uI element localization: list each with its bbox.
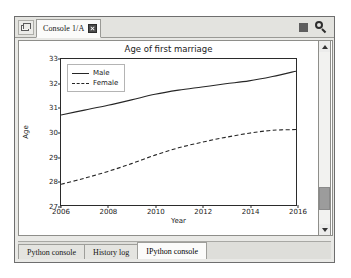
- y-tick-label: 29: [49, 154, 58, 162]
- x-tick-mark: [203, 205, 204, 208]
- folder-browse-icon[interactable]: [18, 20, 34, 35]
- x-tick-mark: [298, 205, 299, 208]
- y-tick-label: 32: [49, 80, 58, 88]
- legend-label-female: Female: [93, 79, 118, 87]
- legend-label-male: Male: [93, 69, 110, 77]
- y-tick-label: 33: [49, 55, 58, 63]
- bottom-tab-ipython-console[interactable]: IPython console: [137, 242, 207, 259]
- x-axis-label: Year: [60, 217, 297, 225]
- x-tick-label: 2006: [52, 208, 70, 216]
- chart-legend: Male Female: [67, 64, 125, 92]
- y-tick-mark: [58, 59, 61, 60]
- console-tab-label: Console 1/A: [43, 24, 84, 33]
- tab-console-1a[interactable]: Console 1/A: [36, 19, 101, 38]
- legend-swatch-female: [72, 83, 89, 84]
- x-tick-label: 2010: [147, 208, 165, 216]
- y-tick-label: 30: [49, 129, 58, 137]
- plot-axes: Male Female 2728293031323320062008201020…: [60, 58, 297, 206]
- y-tick-label: 31: [49, 104, 58, 112]
- legend-entry-male: Male: [72, 68, 118, 78]
- console-output-area[interactable]: Age of first marriage Age Year Male Fema…: [18, 40, 333, 236]
- vertical-scrollbar[interactable]: [318, 40, 331, 236]
- y-tick-mark: [58, 83, 61, 84]
- y-tick-mark: [58, 182, 61, 183]
- bottom-tab-bar: Python consoleHistory logIPython console: [18, 241, 331, 259]
- y-tick-label: 28: [49, 178, 58, 186]
- magnifier-options-icon[interactable]: [315, 21, 327, 33]
- x-tick-mark: [61, 205, 62, 208]
- topbar-spacer: [101, 17, 299, 37]
- chevron-down-glyph: [322, 228, 328, 232]
- chart-title: Age of first marriage: [19, 44, 318, 54]
- bottom-tab-history-log[interactable]: History log: [84, 244, 138, 259]
- x-tick-mark: [250, 205, 251, 208]
- scrollbar-thumb[interactable]: [319, 187, 330, 210]
- x-tick-mark: [108, 205, 109, 208]
- series-line-female: [61, 130, 296, 185]
- legend-entry-female: Female: [72, 78, 118, 88]
- y-tick-mark: [58, 108, 61, 109]
- bottom-tab-python-console[interactable]: Python console: [18, 244, 85, 259]
- x-tick-label: 2012: [194, 208, 212, 216]
- console-topbar: Console 1/A: [15, 17, 334, 38]
- spyder-console-window: Console 1/A Age of first marriage Age Ye…: [14, 16, 335, 263]
- legend-swatch-male: [72, 73, 89, 74]
- y-tick-mark: [58, 133, 61, 134]
- chevron-up-glyph: [322, 45, 328, 49]
- y-axis-label: Age: [22, 125, 30, 139]
- x-tick-mark: [155, 205, 156, 208]
- chevron-up-icon[interactable]: [319, 41, 330, 52]
- stop-square-icon[interactable]: [299, 23, 308, 32]
- x-tick-label: 2014: [242, 208, 260, 216]
- x-tick-label: 2008: [99, 208, 117, 216]
- chevron-down-icon[interactable]: [319, 224, 330, 235]
- x-tick-label: 2016: [289, 208, 307, 216]
- y-tick-mark: [58, 157, 61, 158]
- close-icon[interactable]: [88, 24, 97, 33]
- topbar-tools: [299, 21, 327, 33]
- matplotlib-figure: Age of first marriage Age Year Male Fema…: [19, 41, 318, 235]
- screenshot-root: Console 1/A Age of first marriage Age Ye…: [0, 0, 351, 278]
